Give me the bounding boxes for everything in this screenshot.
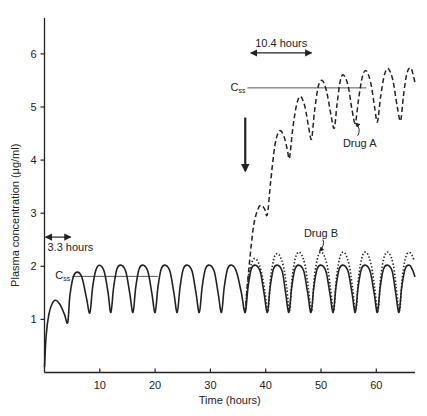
- y-tick-label: 6: [30, 48, 36, 60]
- half-life-b-label: 3.3 hours: [48, 241, 94, 253]
- chart: 123456 102030405060 Time (hours) Plasma …: [0, 0, 427, 416]
- y-ticks: 123456: [30, 48, 44, 326]
- y-tick-label: 4: [30, 154, 36, 166]
- drug-b-label: Drug B: [304, 227, 338, 239]
- drug-a-pointer-arrow: [355, 123, 359, 136]
- y-axis-title: Plasma concentration (μg/ml): [9, 144, 21, 287]
- css-label: Css: [230, 81, 245, 94]
- axes: 123456 102030405060: [30, 18, 415, 391]
- x-tick-label: 20: [149, 379, 161, 391]
- x-tick-label: 50: [315, 379, 327, 391]
- y-tick-label: 2: [30, 260, 36, 272]
- series-layer: [45, 68, 416, 368]
- y-tick-label: 5: [30, 101, 36, 113]
- x-tick-label: 30: [204, 379, 216, 391]
- css-label: Css: [55, 269, 70, 282]
- drug-a-label: Drug A: [343, 137, 377, 149]
- x-axis-title: Time (hours): [199, 394, 261, 406]
- x-tick-label: 10: [94, 379, 106, 391]
- series-line-solid: [45, 265, 416, 367]
- annotations: 3.3 hours 10.4 hours Drug A Drug B: [46, 37, 378, 253]
- drug-b-pointer-arrow: [319, 240, 323, 252]
- half-life-a-label: 10.4 hours: [255, 37, 307, 49]
- y-tick-label: 3: [30, 207, 36, 219]
- y-tick-label: 1: [30, 313, 36, 325]
- x-ticks: 102030405060: [94, 369, 383, 391]
- x-tick-label: 60: [370, 379, 382, 391]
- x-tick-label: 40: [260, 379, 272, 391]
